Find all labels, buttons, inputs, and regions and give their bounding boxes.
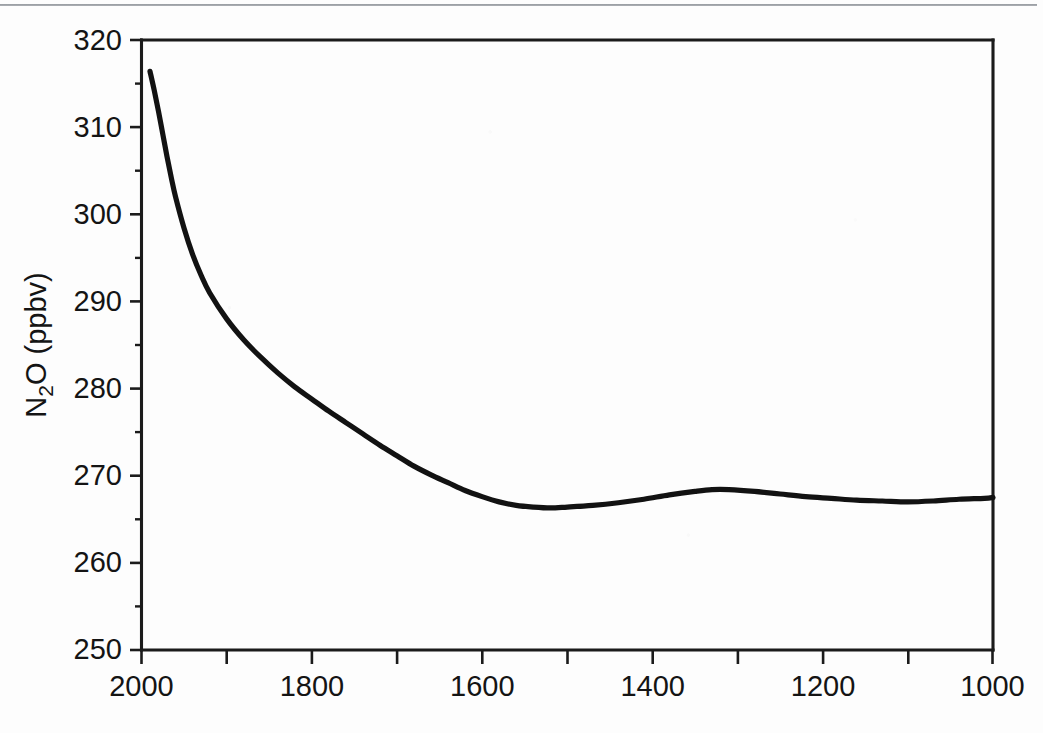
chart-figure: 320 310 300 290 280 270 260 250	[0, 0, 1043, 733]
y-tick-label: 320	[74, 24, 122, 56]
y-tick-label: 300	[74, 198, 122, 230]
n2o-line-chart: 320 310 300 290 280 270 260 250	[0, 0, 1043, 733]
x-tick-label: 1400	[620, 670, 685, 702]
x-tick-label: 1600	[450, 670, 515, 702]
y-tick-label: 310	[74, 111, 122, 143]
y-axis-title: N2O (ppbv)	[20, 272, 57, 417]
x-tick-label: 1200	[791, 670, 856, 702]
svg-text:N2O (ppbv): N2O (ppbv)	[20, 272, 57, 417]
y-axis-title-element: N	[20, 397, 52, 418]
plot-frame	[142, 40, 994, 650]
x-tick-labels: 2000 1800 1600 1400 1200 1000	[109, 670, 1025, 702]
x-axis-ticks	[142, 650, 993, 664]
y-axis-title-subscript: 2	[34, 385, 57, 397]
y-tick-labels: 320 310 300 290 280 270 260 250	[74, 24, 122, 665]
y-tick-label: 270	[74, 459, 122, 491]
y-axis-title-rest: O (ppbv)	[20, 272, 52, 385]
x-tick-label: 1800	[280, 670, 345, 702]
n2o-series-line	[150, 71, 993, 508]
figure-page: 320 310 300 290 280 270 260 250	[0, 0, 1043, 733]
x-tick-label: 1000	[960, 670, 1025, 702]
y-tick-label: 260	[74, 546, 122, 578]
y-tick-label: 280	[74, 372, 122, 404]
y-tick-label: 290	[74, 285, 122, 317]
x-tick-label: 2000	[109, 670, 174, 702]
y-tick-label: 250	[74, 633, 122, 665]
